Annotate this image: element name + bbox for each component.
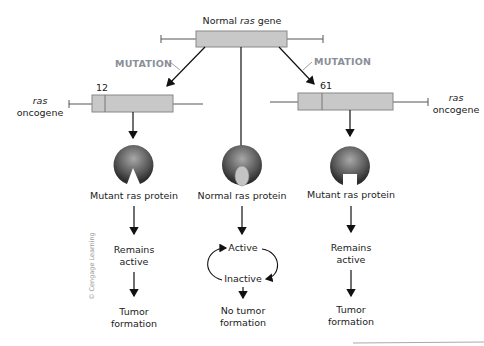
right-state: Remains active (317, 242, 385, 266)
right-result: Tumor formation (317, 304, 385, 328)
left-result: Tumor formation (100, 306, 168, 330)
copyright-credit: © Cengage Learning (88, 232, 96, 300)
mutant-protein-left-icon (113, 145, 153, 184)
center-result: No tumor formation (208, 305, 278, 329)
protein-label-left: Mutant ras protein (88, 190, 180, 202)
codon-61-label: 61 (320, 80, 332, 92)
diagram-canvas (0, 0, 484, 346)
left-oncogene (69, 95, 203, 112)
protein-label-center: Normal ras protein (196, 190, 288, 202)
cycle-active-label: Active (222, 242, 264, 254)
mutation-label-left: MUTATION (115, 58, 172, 69)
mutation-label-right: MUTATION (314, 56, 371, 67)
cycle-inactive-label: Inactive (220, 273, 266, 285)
mutation-arrow-right (279, 47, 314, 84)
left-oncogene-label: ras oncogene (14, 95, 66, 119)
divider (353, 342, 484, 343)
normal-gene-label: Normal ras gene (200, 15, 284, 27)
right-oncogene-label: ras oncogene (430, 92, 482, 116)
protein-label-right: Mutant ras protein (304, 189, 398, 201)
mutant-protein-right-icon (330, 146, 370, 185)
left-state: Remains active (100, 244, 168, 268)
normal-protein-icon (222, 145, 262, 186)
mutation-arrow-left (167, 47, 205, 86)
normal-gene (161, 31, 323, 47)
codon-12-label: 12 (96, 82, 108, 94)
right-oncogene (270, 93, 428, 110)
